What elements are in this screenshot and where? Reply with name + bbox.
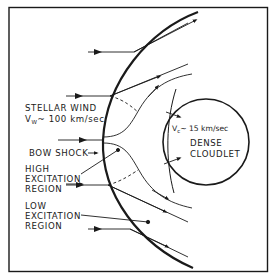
bow-shock-curve [103, 12, 198, 268]
cloudlet-velocity: Vc~ 15 km/sec [172, 124, 228, 134]
cloudlet-shock-front [168, 89, 176, 193]
bow-shock-label: BOW SHOCK [29, 148, 88, 158]
high-excitation-label-1: HIGH [25, 164, 50, 174]
stellar-wind-velocity: VW~ 100 km/sec [25, 114, 105, 125]
contact-discontinuity-dashed [108, 96, 138, 185]
diagram-frame [9, 8, 268, 272]
diagram-canvas: STELLAR WIND VW~ 100 km/sec BOW SHOCK HI… [0, 0, 272, 278]
wrap-streamlines [103, 74, 192, 208]
high-excitation-label-2: EXCITATION [25, 174, 81, 184]
stellar-wind-label: STELLAR WIND [25, 103, 97, 113]
low-excitation-label-3: REGION [25, 221, 62, 231]
cloudlet-label: CLOUDLET [190, 149, 241, 159]
low-excitation-label-1: LOW [25, 201, 47, 211]
dense-label: DENSE [190, 138, 222, 148]
low-excitation-label-2: EXCITATION [25, 211, 81, 221]
high-excitation-label-3: REGION [25, 184, 62, 194]
cloudlet-arrow-upper [166, 112, 180, 117]
deflected-streamlines [108, 20, 196, 257]
